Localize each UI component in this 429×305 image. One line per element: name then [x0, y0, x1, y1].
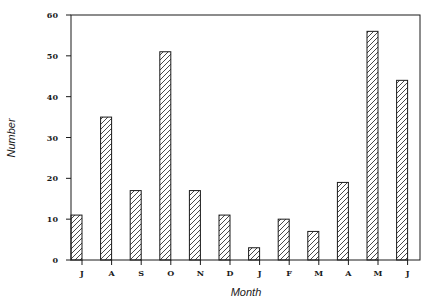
y-axis-title: Number — [5, 117, 17, 157]
bar — [249, 248, 260, 260]
x-tick-label: D — [227, 268, 234, 278]
bar — [101, 117, 112, 260]
bar — [160, 52, 171, 260]
x-tick-label: M — [374, 268, 383, 278]
bar-chart: 0102030405060 JASONDJFMAMJ Month Number — [0, 0, 429, 305]
y-tick-label: 10 — [47, 214, 59, 224]
x-tick-label: S — [138, 268, 144, 278]
y-tick-label: 0 — [52, 255, 58, 265]
y-tick-label: 60 — [47, 10, 59, 20]
x-axis-title: Month — [231, 286, 262, 298]
x-tick-label: J — [405, 268, 410, 278]
bar — [71, 215, 82, 260]
bar — [337, 182, 348, 260]
bar — [367, 31, 378, 260]
bar — [189, 191, 200, 260]
x-axis: JASONDJFMAMJ — [79, 260, 410, 278]
x-tick-label: A — [107, 268, 115, 278]
bar — [219, 215, 230, 260]
x-tick-label: F — [286, 268, 292, 278]
x-tick-label: O — [167, 268, 174, 278]
y-tick-label: 30 — [47, 133, 59, 143]
bar — [397, 80, 408, 260]
y-tick-label: 20 — [47, 173, 59, 183]
bar — [308, 231, 319, 260]
y-tick-label: 50 — [47, 51, 59, 61]
x-tick-label: N — [197, 268, 204, 278]
y-axis: 0102030405060 — [47, 10, 71, 265]
x-tick-label: J — [257, 268, 262, 278]
bar — [130, 191, 141, 260]
x-tick-label: A — [344, 268, 352, 278]
bars — [71, 31, 408, 260]
x-tick-label: M — [314, 268, 323, 278]
y-tick-label: 40 — [47, 92, 59, 102]
bar — [278, 219, 289, 260]
x-tick-label: J — [79, 268, 84, 278]
